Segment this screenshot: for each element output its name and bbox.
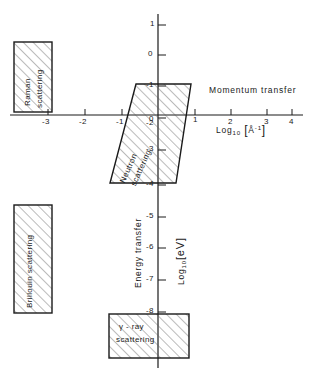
y-tick-label--8: -8 [146,307,154,315]
neutron-scattering-region [110,84,191,183]
y-tick-label--2: -2 [146,119,154,127]
x-axis-title: Momentum transfer [209,86,296,95]
x-tick-label--3: -3 [42,118,50,126]
raman-scattering-label-line2: scattering [36,69,44,108]
y-units-sub: 10 [180,260,187,268]
x-tick-label--2: -2 [79,118,87,126]
raman-scattering-region [14,42,52,112]
y-units-value: [eV] [174,237,186,260]
x-tick-label-1: 1 [193,116,198,124]
y-tick-label--6: -6 [146,243,154,251]
x-tick-label-4: 4 [289,118,294,126]
y-tick-label-1: 1 [150,20,155,28]
x-units-sub: 10 [233,129,241,136]
brillouin-scattering-label: Brillouin scattering [26,235,34,308]
y-tick-label--1: -1 [146,81,154,89]
y-tick-label--7: -7 [146,275,154,283]
y-tick-label-0: 0 [148,50,153,58]
y-axis-title: Energy transfer [134,218,143,288]
gamma-ray-scattering-label-line2: scattering [116,336,155,344]
y-axis-units: Log10[eV] [175,237,187,285]
y-tick-label--4: -4 [146,180,154,188]
x-units-bracket-close: ] [262,123,266,137]
x-units-sup: -1 [255,124,262,131]
x-tick-label--1: -1 [116,118,124,126]
raman-scattering-label-line1: Raman [24,78,32,106]
gamma-ray-scattering-label-line1: γ - ray [119,323,144,331]
y-units-log: Log [176,268,186,285]
y-tick-label--5: -5 [146,212,154,220]
x-axis-units: Log10 [Å-1] [216,124,266,137]
x-units-log: Log [216,125,233,135]
scattering-techniques-chart: -3 -2 -1 0 1 2 3 4 1 0 -1 -2 -3 -4 -5 -6… [0,0,315,375]
chart-canvas [0,0,315,375]
